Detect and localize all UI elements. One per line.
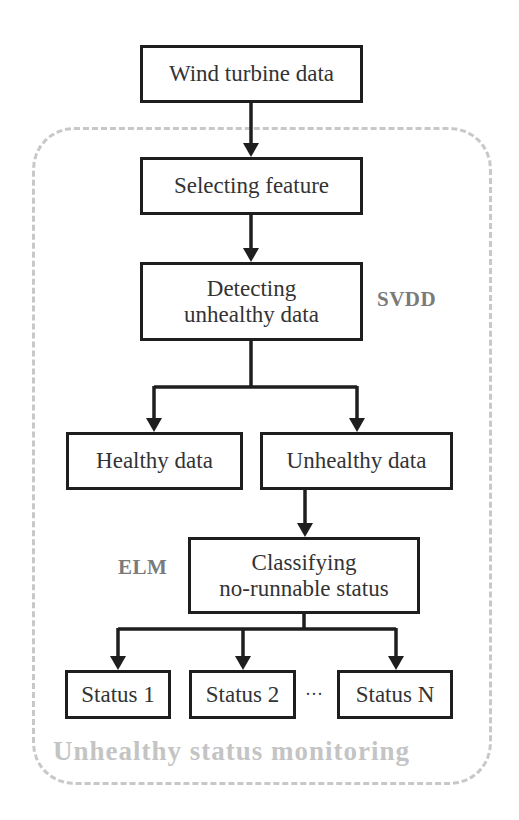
node-label-line1: Classifying xyxy=(252,550,357,576)
arrowhead-icon xyxy=(146,418,162,432)
arrowhead-icon xyxy=(235,656,251,670)
node-status-1: Status 1 xyxy=(65,670,171,719)
arrowhead-icon xyxy=(110,656,126,670)
node-label: Wind turbine data xyxy=(169,61,334,87)
arrowhead-icon xyxy=(349,418,365,432)
node-healthy-data: Healthy data xyxy=(66,432,243,490)
elm-annotation: ELM xyxy=(118,555,167,580)
node-label-line2: unhealthy data xyxy=(184,302,319,328)
arrowhead-icon xyxy=(243,143,259,157)
arrowhead-icon xyxy=(243,248,259,262)
node-selecting-feature: Selecting feature xyxy=(140,157,363,215)
node-label: Unhealthy data xyxy=(287,448,427,474)
node-status-n: Status N xyxy=(337,670,453,719)
node-label: Status N xyxy=(356,682,435,708)
node-label: Status 1 xyxy=(81,682,154,708)
svdd-annotation: SVDD xyxy=(377,287,436,312)
node-detecting-unhealthy-data: Detecting unhealthy data xyxy=(140,262,363,341)
node-classifying-status: Classifying no-runnable status xyxy=(188,537,420,614)
node-label: Healthy data xyxy=(96,448,213,474)
node-label: Status 2 xyxy=(206,682,279,708)
group-label: Unhealthy status monitoring xyxy=(49,736,414,767)
node-label-line2: no-runnable status xyxy=(219,576,388,602)
node-label: Selecting feature xyxy=(174,173,329,199)
arrowhead-icon xyxy=(388,656,404,670)
ellipsis: ··· xyxy=(305,684,323,705)
node-wind-turbine-data: Wind turbine data xyxy=(140,45,363,103)
node-status-2: Status 2 xyxy=(189,670,296,719)
node-label-line1: Detecting xyxy=(207,276,296,302)
node-unhealthy-data: Unhealthy data xyxy=(260,432,453,490)
arrowhead-icon xyxy=(297,523,313,537)
